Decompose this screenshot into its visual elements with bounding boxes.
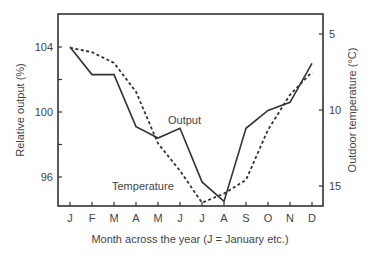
xtick-label: J [177, 212, 183, 224]
xtick-label: J [199, 212, 205, 224]
xtick-label: D [308, 212, 316, 224]
ytick-100: 100 [35, 106, 53, 118]
output-annotation: Output [168, 114, 201, 126]
y2tick-10: 10 [329, 104, 341, 116]
y2tick-5: 5 [329, 28, 335, 40]
xtick-label: A [132, 212, 140, 224]
xtick-label: O [264, 212, 273, 224]
chart: JFMAMJJASOND 104 100 96 5 10 15 Output T… [0, 0, 371, 258]
xtick-label: N [286, 212, 294, 224]
xtick-label: A [220, 212, 228, 224]
xtick-label: F [89, 212, 96, 224]
xtick-label: M [153, 212, 162, 224]
x-axis-label: Month across the year (J = January etc.) [91, 233, 288, 245]
temperature-annotation: Temperature [112, 180, 174, 192]
ytick-104: 104 [35, 41, 53, 53]
xtick-label: S [242, 212, 249, 224]
xtick-label: M [109, 212, 118, 224]
plot-frame [58, 14, 323, 206]
xtick-label: J [67, 212, 73, 224]
y-axis-label: Relative output (%) [14, 63, 26, 157]
ytick-96: 96 [41, 171, 53, 183]
y2tick-15: 15 [329, 180, 341, 192]
x-axis-tick-labels: JFMAMJJASOND [67, 212, 316, 224]
y2-axis-label: Outdoor temperature (°C) [346, 48, 358, 173]
